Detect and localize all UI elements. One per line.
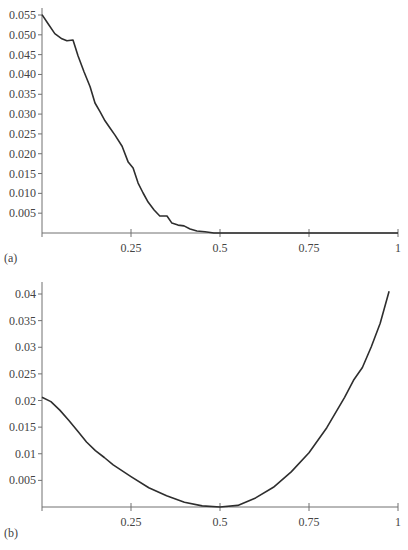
x-tick-label: 0.75 bbox=[299, 241, 320, 255]
x-tick-label: 0.5 bbox=[213, 515, 228, 529]
y-tick-label: 0.020 bbox=[9, 147, 36, 161]
chart-b-panel-label: (b) bbox=[4, 526, 18, 540]
y-tick-label: 0.050 bbox=[9, 28, 36, 42]
y-tick-label: 0.025 bbox=[9, 127, 36, 141]
figure: 0.0050.0100.0150.0200.0250.0300.0350.040… bbox=[0, 0, 408, 550]
y-tick-label: 0.04 bbox=[15, 287, 36, 301]
x-tick-label: 0.5 bbox=[213, 241, 228, 255]
chart-a-panel-label: (a) bbox=[4, 251, 17, 265]
y-tick-label: 0.02 bbox=[15, 394, 36, 408]
chart-a-y-ticks: 0.0050.0100.0150.0200.0250.0300.0350.040… bbox=[9, 8, 42, 220]
chart-b: 0.0050.010.0150.020.0250.030.0350.04 0.2… bbox=[4, 282, 401, 540]
y-tick-label: 0.015 bbox=[9, 420, 36, 434]
chart-b-line bbox=[42, 291, 389, 507]
y-tick-label: 0.055 bbox=[9, 8, 36, 22]
y-tick-label: 0.015 bbox=[9, 167, 36, 181]
chart-b-y-ticks: 0.0050.010.0150.020.0250.030.0350.04 bbox=[9, 287, 42, 487]
y-tick-label: 0.030 bbox=[9, 107, 36, 121]
chart-a-line bbox=[42, 15, 398, 233]
y-tick-label: 0.035 bbox=[9, 314, 36, 328]
y-tick-label: 0.045 bbox=[9, 48, 36, 62]
x-tick-label: 1 bbox=[395, 241, 401, 255]
y-tick-label: 0.005 bbox=[9, 473, 36, 487]
y-tick-label: 0.025 bbox=[9, 367, 36, 381]
x-tick-label: 0.75 bbox=[299, 515, 320, 529]
y-tick-label: 0.035 bbox=[9, 87, 36, 101]
y-tick-label: 0.040 bbox=[9, 67, 36, 81]
y-tick-label: 0.010 bbox=[9, 186, 36, 200]
y-tick-label: 0.005 bbox=[9, 206, 36, 220]
y-tick-label: 0.01 bbox=[15, 447, 36, 461]
x-tick-label: 0.25 bbox=[121, 241, 142, 255]
chart-a: 0.0050.0100.0150.0200.0250.0300.0350.040… bbox=[4, 8, 401, 265]
x-tick-label: 0.25 bbox=[121, 515, 142, 529]
x-tick-label: 1 bbox=[395, 515, 401, 529]
y-tick-label: 0.03 bbox=[15, 340, 36, 354]
